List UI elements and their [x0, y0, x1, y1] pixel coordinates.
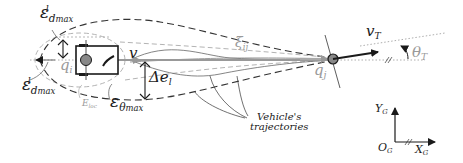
target-node-qj — [325, 35, 340, 88]
label-e-loc: Eloc — [82, 99, 97, 110]
diagram-canvas — [0, 0, 463, 163]
global-frame-axes — [395, 108, 435, 145]
vehicle-icon — [76, 40, 118, 80]
label-theta-T: θT — [412, 45, 427, 62]
leader-line-3 — [237, 76, 248, 116]
velocity-arrow-vT — [333, 52, 378, 59]
label-qj: qj — [314, 63, 327, 80]
label-eps-dmax-top: εldmax — [40, 4, 73, 23]
theta-T-arc — [401, 46, 408, 59]
label-XG: XG — [415, 144, 428, 157]
label-OG: OG — [378, 142, 392, 155]
label-xi-ij: ξij — [235, 35, 248, 52]
label-v: v — [129, 46, 137, 61]
label-qi: qi — [60, 58, 73, 75]
label-eps-theta-max: εθmax — [110, 93, 143, 112]
envelope-inner-upper — [120, 42, 335, 58]
leader-line-2 — [210, 76, 247, 118]
label-delta-el: Δel — [149, 70, 172, 87]
label-YG: YG — [375, 103, 388, 116]
label-eps-dmax-bottom: εldmax — [22, 76, 55, 95]
label-vehicle-trajectories: Vehicle'strajectories — [250, 112, 308, 132]
label-vT: vT — [366, 24, 381, 41]
